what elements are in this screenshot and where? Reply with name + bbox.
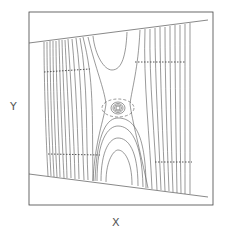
streamline-plot <box>0 0 226 234</box>
right-streamlines <box>145 23 190 194</box>
left-streamlines <box>44 37 93 181</box>
bottom-arches <box>95 118 146 188</box>
top-wall <box>29 20 208 43</box>
left-separatrix <box>88 37 106 181</box>
vortex <box>102 99 134 117</box>
top-loop <box>93 32 127 70</box>
y-axis-label: Y <box>10 100 17 113</box>
plot-frame <box>29 12 213 205</box>
x-axis-label: X <box>112 216 120 229</box>
